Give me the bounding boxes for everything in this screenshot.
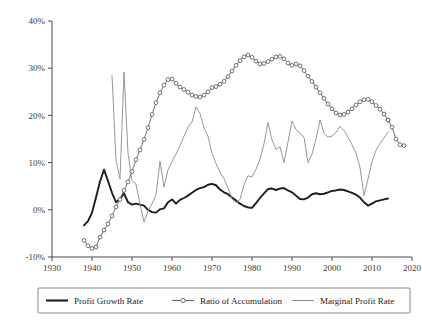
data-point-marker [370, 100, 374, 104]
legend-item-label: Profit Growth Rate [74, 296, 143, 306]
x-tick-label: 1950 [123, 263, 142, 273]
data-point-marker [286, 61, 290, 65]
x-tick-label: 1990 [283, 263, 302, 273]
data-point-marker [94, 245, 98, 249]
series-line-ratio-of-accumulation [84, 55, 388, 249]
data-point-marker [178, 85, 182, 89]
x-tick-label: 1930 [43, 263, 62, 273]
data-point-marker [110, 214, 114, 218]
data-point-marker [198, 95, 202, 99]
axis-lines [52, 21, 412, 257]
y-tick-label: 10% [29, 158, 46, 168]
data-point-marker [274, 55, 278, 59]
y-tick-label: 30% [29, 63, 46, 73]
x-tick-label: 2010 [363, 263, 382, 273]
data-point-marker [250, 55, 254, 59]
legend-marker-icon [181, 298, 185, 302]
data-point-marker [134, 158, 138, 162]
x-tick-label: 2000 [323, 263, 342, 273]
data-point-marker [318, 91, 322, 95]
y-tick-label: 0% [33, 205, 46, 215]
data-point-marker [118, 198, 122, 202]
data-point-marker [138, 148, 142, 152]
data-point-marker [350, 107, 354, 111]
data-point-marker [226, 75, 230, 79]
data-point-marker [374, 104, 378, 108]
data-point-marker [230, 69, 234, 73]
data-point-marker [314, 85, 318, 89]
data-point-marker [102, 228, 106, 232]
legend-item-label: Marginal Profit Rate [320, 296, 394, 306]
data-point-marker [346, 110, 350, 114]
data-series [82, 53, 406, 250]
data-point-marker [234, 63, 238, 67]
data-point-marker [366, 97, 370, 101]
data-point-marker [142, 138, 146, 142]
data-point-marker [186, 90, 190, 94]
x-tick-label: 1960 [163, 263, 182, 273]
data-point-marker [254, 59, 258, 63]
data-point-marker [194, 95, 198, 99]
y-tick-label: 20% [29, 111, 46, 121]
chart-container: -10%0%10%20%30%40% 193019401950196019701… [0, 0, 422, 327]
series-line-marginal-profit-rate [112, 72, 388, 222]
data-point-marker [90, 247, 94, 251]
data-point-marker [358, 100, 362, 104]
data-point-marker [210, 86, 214, 90]
data-point-marker [98, 235, 102, 239]
data-point-marker [154, 101, 158, 105]
data-point-marker [242, 55, 246, 59]
data-point-marker [218, 82, 222, 86]
data-point-marker [298, 64, 302, 68]
data-point-marker [290, 63, 294, 67]
data-point-marker [86, 244, 90, 248]
axes [52, 21, 412, 257]
data-point-marker [282, 57, 286, 61]
data-point-marker [386, 118, 390, 122]
data-point-marker [166, 78, 170, 82]
data-point-marker [354, 103, 358, 107]
data-point-marker [378, 107, 382, 111]
data-point-marker [202, 93, 206, 97]
data-point-marker [402, 144, 406, 148]
data-point-marker [190, 93, 194, 97]
x-axis-ticks: 1930194019501960197019801990200020102020 [43, 257, 422, 273]
x-tick-label: 1980 [243, 263, 262, 273]
data-point-marker [278, 55, 282, 59]
data-point-marker [258, 62, 262, 66]
data-point-marker [82, 239, 86, 243]
x-tick-label: 1970 [203, 263, 222, 273]
data-point-marker [334, 111, 338, 115]
data-point-marker [326, 102, 330, 106]
data-point-marker [382, 112, 386, 116]
data-point-marker [306, 74, 310, 78]
data-point-marker [170, 77, 174, 81]
data-point-marker [398, 143, 402, 147]
data-point-marker [266, 60, 270, 64]
data-point-marker [222, 80, 226, 84]
data-point-marker [390, 125, 394, 129]
data-point-marker [262, 62, 266, 66]
data-point-marker [322, 97, 326, 101]
data-point-marker [270, 57, 274, 61]
data-point-marker [174, 81, 178, 85]
y-tick-label: 40% [29, 16, 46, 26]
x-tick-label: 1940 [83, 263, 102, 273]
data-point-marker [394, 137, 398, 141]
data-point-marker [162, 83, 166, 87]
data-point-marker [338, 113, 342, 117]
chart-legend: Profit Growth RateRatio of AccumulationM… [38, 288, 410, 313]
series-line-ratio-of-accumulation-tail [388, 120, 404, 145]
x-tick-label: 2020 [403, 263, 422, 273]
data-point-marker [150, 113, 154, 117]
y-tick-label: -10% [26, 252, 46, 262]
data-point-marker [342, 113, 346, 117]
data-point-marker [238, 59, 242, 63]
data-point-marker [126, 180, 130, 184]
data-point-marker [114, 205, 118, 209]
legend-item-label: Ratio of Accumulation [200, 296, 282, 306]
line-chart: -10%0%10%20%30%40% 193019401950196019701… [0, 0, 422, 327]
data-point-marker [310, 80, 314, 84]
data-point-marker [214, 85, 218, 89]
data-point-marker [302, 69, 306, 73]
